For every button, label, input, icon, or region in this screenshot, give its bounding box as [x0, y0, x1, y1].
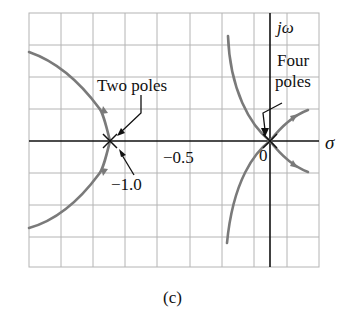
- locus-branch-upper-arc: [228, 36, 270, 141]
- locus-branch-upper-left: [29, 52, 110, 141]
- imaginary-axis-label: jω: [275, 18, 294, 37]
- four-poles-pointer: [263, 103, 282, 130]
- grid: [29, 13, 319, 267]
- two-poles-label: Two poles: [97, 76, 167, 95]
- real-axis-label: σ: [325, 132, 335, 153]
- tick-label-zero: 0: [259, 146, 268, 165]
- minus-one-pointer: [122, 155, 134, 175]
- tick-label-minus-one: −1.0: [111, 175, 142, 194]
- figure-caption: (c): [163, 288, 182, 307]
- arrow-icon: [101, 168, 108, 176]
- four-poles-label-line2: poles: [275, 72, 311, 91]
- arrow-icon: [101, 106, 108, 114]
- four-poles-label-line1: Four: [277, 51, 309, 70]
- root-locus-diagram: Two poles Four poles jω σ −0.5 −1.0 0 (c…: [0, 0, 354, 325]
- locus-branch-lower-left: [29, 141, 110, 228]
- tick-label-minus-half: −0.5: [163, 148, 194, 167]
